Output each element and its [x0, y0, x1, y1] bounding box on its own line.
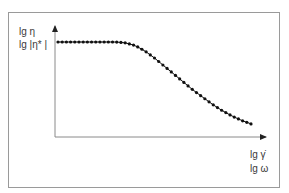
y-axis-label-complex-eta: lg |η* |: [19, 39, 47, 51]
flow-curve-plot: [0, 0, 289, 193]
x-axis-label-omega: lg ω: [250, 163, 268, 175]
y-axis-label-eta: lg η: [19, 26, 35, 38]
x-axis-label-shear-rate: lg γ̇: [250, 149, 266, 161]
viscosity-curve: [56, 40, 252, 125]
